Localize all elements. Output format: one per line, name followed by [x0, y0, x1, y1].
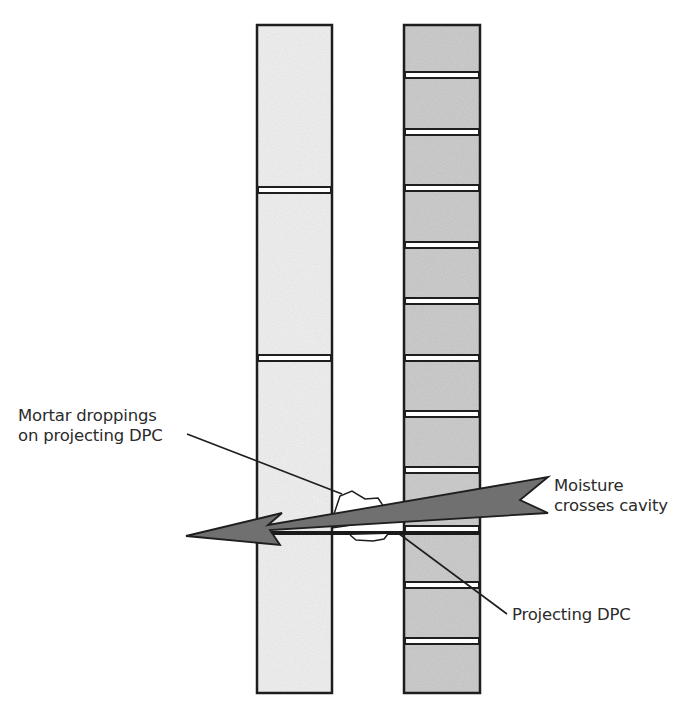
projecting-dpc: [257, 531, 480, 535]
outer-leaf-wall: [404, 25, 480, 693]
label-projecting-dpc-text: Projecting DPC: [512, 605, 631, 624]
inner-leaf-wall: [257, 25, 332, 693]
label-mortar-droppings-line2: on projecting DPC: [18, 426, 163, 446]
label-moisture-crosses-cavity: Moisture crosses cavity: [554, 476, 668, 516]
label-moisture-line2: crosses cavity: [554, 496, 668, 516]
cavity-wall-diagram: [0, 0, 690, 708]
label-mortar-droppings-line1: Mortar droppings: [18, 406, 163, 426]
label-mortar-droppings: Mortar droppings on projecting DPC: [18, 406, 163, 446]
label-moisture-line1: Moisture: [554, 476, 668, 496]
label-projecting-dpc: Projecting DPC: [512, 605, 631, 625]
